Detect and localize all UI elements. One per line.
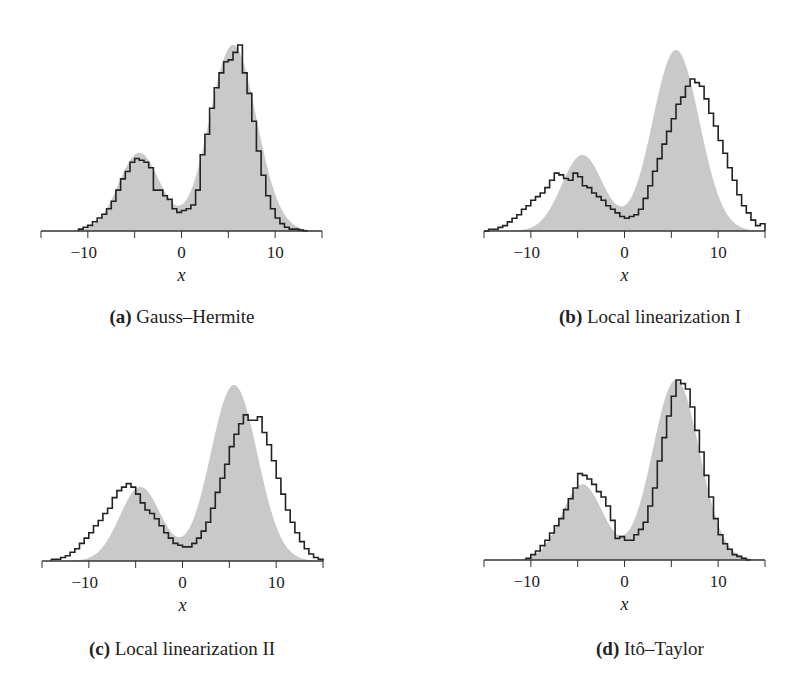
panel-d: −10010x [0,0,330,320]
caption-d-title: Itô–Taylor [624,638,704,659]
density-area [484,380,765,560]
x-tick-label: 10 [710,572,727,591]
x-axis-label: x [620,594,629,614]
caption-d: (d) Itô–Taylor [485,638,807,660]
caption-d-label: (d) [596,638,619,659]
plot-d: −10010x [0,0,807,694]
x-tick-label: −10 [514,572,541,591]
x-tick-label: 0 [620,572,629,591]
